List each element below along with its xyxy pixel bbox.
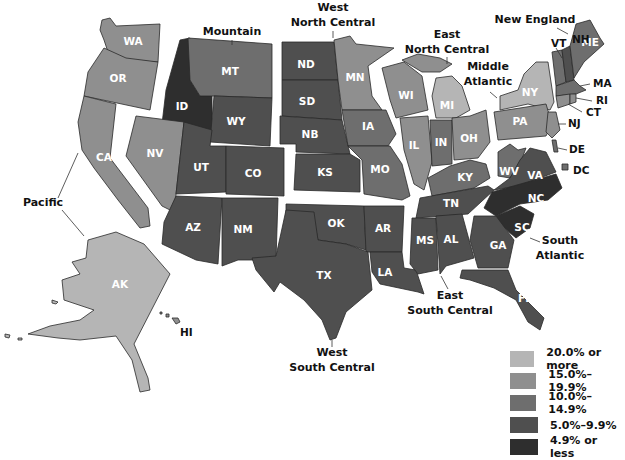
region-pacific: Pacific <box>23 196 63 209</box>
label-ky: KY <box>457 171 473 183</box>
region-mountain: Mountain <box>203 25 261 38</box>
legend-item: 15.0%–19.9% <box>510 370 625 392</box>
label-la: LA <box>378 266 394 278</box>
label-sc: SC <box>514 221 530 233</box>
label-nh: NH <box>572 33 590 45</box>
label-pa: PA <box>513 115 529 127</box>
label-ga: GA <box>490 239 508 251</box>
leader-ma <box>580 84 590 86</box>
region-new-england: New England <box>495 13 576 26</box>
label-az: AZ <box>185 221 201 233</box>
legend-item: 20.0% or more <box>510 348 625 370</box>
region-wnc-line2: North Central <box>291 16 375 29</box>
leader-sa <box>530 238 540 242</box>
legend-swatch <box>510 373 536 389</box>
legend-label: 5.0%–9.9% <box>550 419 617 432</box>
label-nj: NJ <box>568 117 581 129</box>
state-hi <box>160 312 180 324</box>
label-tx: TX <box>316 269 331 281</box>
leader-ct <box>568 104 582 112</box>
label-wi: WI <box>398 89 414 101</box>
state-ms <box>410 218 438 274</box>
label-ak: AK <box>112 278 129 290</box>
leader-pacific-upper <box>58 153 78 198</box>
state-me <box>570 20 604 78</box>
label-mn: MN <box>345 71 364 83</box>
region-wsc-line1: West <box>316 346 347 359</box>
leader-de <box>558 148 567 150</box>
state-dc <box>562 164 568 170</box>
label-mi: MI <box>440 99 454 111</box>
legend-swatch <box>510 439 538 455</box>
label-ny: NY <box>522 86 539 98</box>
label-nm: NM <box>233 223 252 235</box>
label-vt: VT <box>551 37 567 49</box>
label-wv: WV <box>499 165 520 177</box>
label-wy: WY <box>226 115 246 127</box>
label-id: ID <box>176 100 189 112</box>
legend-label: 10.0%–14.9% <box>548 390 625 416</box>
label-ar: AR <box>375 222 391 234</box>
region-esc-line1: East <box>437 289 464 302</box>
label-ri: RI <box>596 94 608 106</box>
region-wnc-line1: West <box>317 1 348 14</box>
legend-swatch <box>510 351 534 367</box>
leader-ri <box>576 98 592 101</box>
label-de: DE <box>569 143 585 155</box>
label-ok: OK <box>327 217 345 229</box>
leader-esc <box>441 276 448 289</box>
legend-item: 4.9% or less <box>510 436 625 458</box>
region-esc-line2: South Central <box>407 304 492 317</box>
legend-label: 4.9% or less <box>550 434 625 460</box>
label-nc: NC <box>528 192 545 204</box>
label-hi: HI <box>180 326 193 338</box>
label-mo: MO <box>370 163 389 175</box>
label-dc: DC <box>573 164 590 176</box>
label-ia: IA <box>362 120 375 132</box>
label-nv: NV <box>147 147 165 159</box>
label-or: OR <box>109 72 126 84</box>
label-il: IL <box>409 139 420 151</box>
region-sa-line2: Atlantic <box>536 249 584 262</box>
label-oh: OH <box>460 132 478 144</box>
label-tn: TN <box>443 197 459 209</box>
label-fl: FL <box>518 292 532 304</box>
label-ma: MA <box>593 77 612 89</box>
label-wa: WA <box>123 35 143 47</box>
state-de <box>552 140 558 152</box>
region-wsc-line2: South Central <box>289 361 374 374</box>
label-mt: MT <box>221 65 239 77</box>
label-ms: MS <box>416 234 434 246</box>
leader-ma-region <box>490 92 497 98</box>
label-va: VA <box>527 169 543 181</box>
region-enc-line2: North Central <box>405 43 489 56</box>
legend-item: 5.0%–9.9% <box>510 414 625 436</box>
region-ma-line2: Atlantic <box>464 75 512 88</box>
label-ut: UT <box>193 161 210 173</box>
region-sa-line1: South <box>542 234 578 247</box>
state-ri <box>570 94 576 104</box>
state-nj <box>546 112 560 138</box>
region-enc-line1: East <box>434 28 461 41</box>
label-in: IN <box>435 136 448 148</box>
leader-ne <box>557 28 568 34</box>
label-al: AL <box>444 233 459 245</box>
leader-pacific-lower <box>62 210 84 236</box>
legend-swatch <box>510 417 538 433</box>
label-nd: ND <box>297 58 315 70</box>
legend-item: 10.0%–14.9% <box>510 392 625 414</box>
label-co: CO <box>245 167 262 179</box>
state-ak <box>28 232 170 392</box>
state-ct <box>556 94 570 108</box>
legend-swatch <box>510 395 536 411</box>
legend: 20.0% or more 15.0%–19.9% 10.0%–14.9% 5.… <box>510 348 625 458</box>
label-sd: SD <box>299 95 316 107</box>
region-ma-line1: Middle <box>467 60 509 73</box>
label-nb: NB <box>302 128 319 140</box>
label-ks: KS <box>317 166 333 178</box>
label-ct: CT <box>586 106 602 118</box>
label-ca: CA <box>96 151 113 163</box>
